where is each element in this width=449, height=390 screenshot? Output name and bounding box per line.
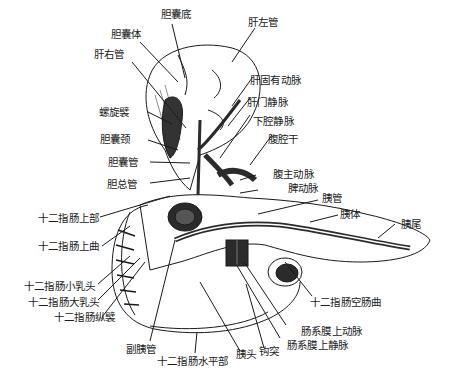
label-left-hepatic-duct: 肝左管: [248, 16, 279, 28]
anatomy-diagram: 胆囊底 胆囊体 肝右管 肝左管 肝固有动脉 肝门静脉 下腔静脉 腹腔干 螺旋襞 …: [0, 0, 449, 390]
label-superior-mesenteric-vein: 肠系膜上静脉: [287, 339, 348, 351]
label-longitudinal-fold: 十二指肠纵襞: [54, 311, 115, 323]
label-right-hepatic-duct: 肝右管: [94, 48, 125, 60]
label-superior-mesenteric-artery: 肠系膜上动脉: [301, 325, 362, 337]
label-gallbladder-fundus: 胆囊底: [161, 8, 192, 20]
illustration: [0, 0, 449, 390]
label-duodenum-superior-part: 十二指肠上部: [38, 212, 99, 224]
label-cystic-duct: 胆囊管: [108, 156, 139, 168]
label-uncinate-process: 钩突: [259, 345, 279, 357]
label-pancreatic-duct: 胰管: [322, 192, 342, 204]
label-pancreas-tail: 胰尾: [401, 218, 421, 230]
label-minor-duodenal-papilla: 十二指肠小乳头: [24, 280, 95, 292]
label-celiac-trunk: 腹腔干: [268, 133, 299, 145]
label-splenic-artery: 脾动脉: [288, 182, 319, 194]
label-major-duodenal-papilla: 十二指肠大乳头: [28, 296, 99, 308]
label-gallbladder-body: 胆囊体: [111, 28, 142, 40]
label-hepatic-portal-vein: 肝门静脉: [247, 96, 288, 108]
label-gallbladder-neck: 胆囊颈: [100, 133, 131, 145]
label-inferior-vena-cava: 下腔静脉: [253, 115, 294, 127]
label-common-bile-duct: 胆总管: [107, 178, 138, 190]
label-pancreas-head: 胰头: [236, 348, 256, 360]
label-duodenojejunal-flexure: 十二指肠空肠曲: [310, 296, 381, 308]
label-abdominal-aorta: 腹主动脉: [273, 168, 314, 180]
label-duodenum-horizontal-part: 十二指肠水平部: [157, 355, 228, 367]
label-pancreas-body: 胰体: [340, 208, 360, 220]
label-proper-hepatic-artery: 肝固有动脉: [250, 74, 301, 86]
label-spiral-fold: 螺旋襞: [99, 106, 130, 118]
label-duodenum-superior-flexure: 十二指肠上曲: [38, 240, 99, 252]
label-accessory-pancreatic-duct: 副胰管: [126, 343, 157, 355]
